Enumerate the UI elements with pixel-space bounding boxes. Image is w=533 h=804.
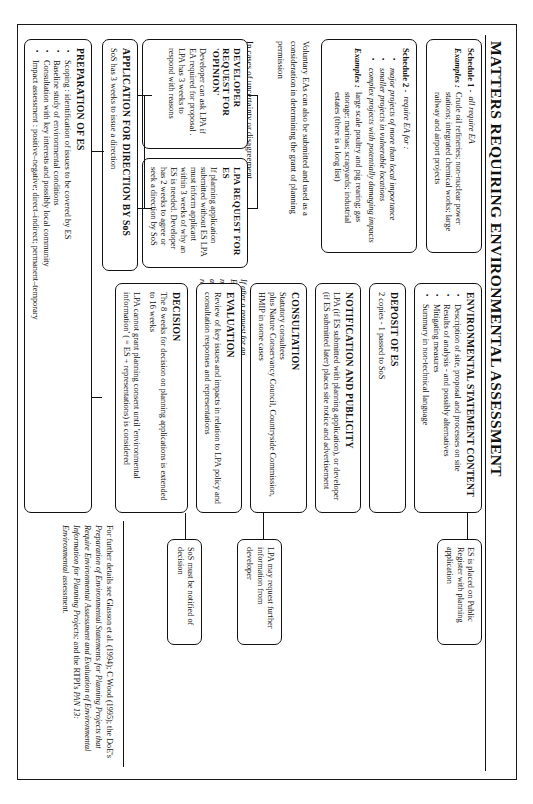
decision-header: DECISION <box>171 292 182 505</box>
preparation-bullet-0: Scoping : identification of issues to be… <box>61 60 72 505</box>
schedule-1-examples-row: Examples : Crude oil refineries; non-nuc… <box>432 48 464 245</box>
application-for-direction-body: SoS has 3 weeks to issue a direction <box>108 48 118 263</box>
further-information-note-box: LPA may request further information from… <box>237 539 282 645</box>
preparation-bullet-1: Baseline study of environmental conditio… <box>51 60 62 505</box>
es-content-bullet-2: Mitigating measures <box>430 304 441 505</box>
connector-uncertainty-horizontal <box>257 95 258 209</box>
schedule-1-rule-row: Schedule 1 - all require EA <box>466 48 477 245</box>
sos-notified-note-text: SoS must be notified of decision <box>174 547 195 637</box>
decision-box: DECISION The 8 weeks for decision on pla… <box>115 283 188 513</box>
footnote-divider <box>123 521 124 767</box>
footnote-mid: and the RTPI's <box>72 640 81 692</box>
connector-requests-to-direction-h <box>144 95 145 209</box>
preparation-of-es-header: PREPARATION OF ES <box>75 48 86 505</box>
further-information-note-text: LPA may request further information from… <box>244 547 275 637</box>
developer-request-body: Developer can ask LPA if EA required for… <box>166 48 207 141</box>
preparation-bullet-3: Impact assessment : positive–negative; d… <box>30 60 41 505</box>
footnote-lead: For further details see Glasson et al. (… <box>105 525 114 758</box>
deposit-of-es-box: DEPOSIT OF ES 2 copies - 1 passed to SoS <box>369 283 405 513</box>
public-register-note-box: ES is placed on Public Register with pla… <box>437 539 482 645</box>
voluntary-ea-note: Voluntary EAs can also be submitted and … <box>275 39 312 253</box>
schedule-1-box: Schedule 1 - all require EA Examples : C… <box>426 39 482 253</box>
schedule-2-examples-label: Examples : <box>331 48 363 88</box>
evaluation-body: Review of key issues and impacts in rela… <box>202 292 223 505</box>
lpa-request-body: If planning application submitted withou… <box>148 167 217 260</box>
public-register-note-text: ES is placed on Public Register with pla… <box>444 547 475 637</box>
es-content-bullet-0: Description of site, proposal and proces… <box>451 304 462 505</box>
connector-uncertainty-vertical-2 <box>248 208 258 209</box>
schedule-2-rule: require EA for : <box>401 96 412 149</box>
application-for-direction-box: APPLICATION FOR DIRECTION BY SoS SoS has… <box>102 39 138 271</box>
consultation-body: Statutory consultees plus Nature Conserv… <box>256 292 287 505</box>
schedule-1-examples-label: Examples : <box>432 48 464 88</box>
rotated-page-canvas: MATTERS REQUIRING ENVIRONMENTAL ASSESSME… <box>0 0 533 804</box>
decision-body-2: LPA cannot grant planning consent until … <box>121 292 142 505</box>
preparation-of-es-box: PREPARATION OF ES Scoping : identificati… <box>24 39 92 513</box>
es-content-header: ENVIRONMENTAL STATEMENT CONTENT <box>465 292 476 505</box>
request-boxes-row: DEVELOPER REQUEST FOR 'OPINION' Develope… <box>142 39 248 271</box>
es-content-bullet-1: Results of analysis - and possibly alter… <box>441 304 452 505</box>
schedule-2-box: Schedule 2 - require EA for : major proj… <box>321 39 417 253</box>
schedule-2-bullet-1: smaller projects in vulnerable locations <box>376 68 387 245</box>
diagram-page: MATTERS REQUIRING ENVIRONMENTAL ASSESSME… <box>17 24 517 780</box>
preparation-bullets: Scoping : identification of issues to be… <box>30 48 72 505</box>
developer-request-header: DEVELOPER REQUEST FOR 'OPINION' <box>210 48 242 141</box>
sos-notified-note-box: SoS must be notified of decision <box>167 539 202 645</box>
notification-publicity-header: NOTIFICATION AND PUBLICITY <box>344 292 355 505</box>
connector-direction-to-preparation <box>92 151 104 152</box>
connector-decision-to-sos <box>185 513 186 539</box>
main-flow-column: ENVIRONMENTAL STATEMENT CONTENT Descript… <box>107 283 482 513</box>
deposit-of-es-body: 2 copies - 1 passed to SoS <box>375 292 385 505</box>
es-content-bullet-3: Summary in non-technical language <box>420 304 431 505</box>
lpa-request-header: LPA REQUEST FOR ES <box>221 167 242 260</box>
connector-evaluation-to-further-info <box>263 513 264 539</box>
schedule-2-rule-row: Schedule 2 - require EA for : <box>401 48 412 245</box>
notification-publicity-box: NOTIFICATION AND PUBLICITY LPA (if ES su… <box>315 283 362 513</box>
schedule-2-label: Schedule 2 - <box>401 48 412 92</box>
evaluation-header: EVALUATION <box>225 292 236 505</box>
schedule-1-rule: all require EA <box>466 96 477 143</box>
connector-requests-to-direction-a <box>138 95 152 96</box>
schedule-1-label: Schedule 1 - <box>466 48 477 92</box>
application-for-direction-header: APPLICATION FOR DIRECTION BY SoS <box>121 48 132 263</box>
consultation-header: CONSULTATION <box>290 292 301 505</box>
lpa-request-box: LPA REQUEST FOR ES If planning applicati… <box>142 158 248 268</box>
schedules-column: Schedule 1 - all require EA Examples : C… <box>245 39 482 253</box>
connector-escontent-to-register <box>467 513 468 539</box>
evaluation-box: EVALUATION Review of key issues and impa… <box>196 283 243 513</box>
schedule-1-examples: Crude oil refineries; non-nuclear power … <box>432 92 464 245</box>
es-content-bullets: Description of site, proposal and proces… <box>420 292 462 505</box>
consultation-box: CONSULTATION Statutory consultees plus N… <box>250 283 307 513</box>
notification-publicity-body: LPA (if ES submitted with planning appli… <box>321 292 342 505</box>
schedule-2-examples: large scale poultry and pig rearing; gas… <box>331 92 363 245</box>
schedule-2-bullet-0: major projects of more than local import… <box>387 68 398 245</box>
deposit-of-es-header: DEPOSIT OF ES <box>389 292 400 505</box>
preparation-bullet-2: Consultation with key interests and poss… <box>40 60 51 505</box>
title-divider <box>485 35 486 771</box>
developer-request-box: DEVELOPER REQUEST FOR 'OPINION' Develope… <box>142 39 248 149</box>
connector-preparation-to-flow-v <box>92 397 102 398</box>
connector-requests-to-direction-b <box>138 208 152 209</box>
schedule-2-bullets: major projects of more than local import… <box>366 56 398 245</box>
schedule-2-bullet-2: complex projects with potentially damagi… <box>366 68 377 245</box>
decision-body: The 8 weeks for decision on planning app… <box>147 292 168 505</box>
es-content-box: ENVIRONMENTAL STATEMENT CONTENT Descript… <box>414 283 482 513</box>
footnote-tail: assessment. <box>61 573 70 613</box>
footnote: For further details see Glasson et al. (… <box>59 525 114 765</box>
schedule-2-examples-row: Examples : large scale poultry and pig r… <box>331 48 363 245</box>
